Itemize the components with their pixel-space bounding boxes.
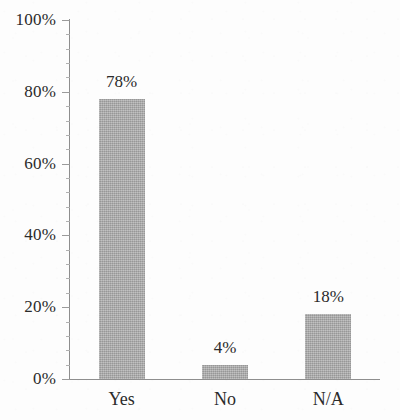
bar-value-label: 78% [82,73,162,90]
y-axis-tick-label: 100% [0,11,56,28]
y-axis-tick-label: 40% [0,226,56,243]
y-axis-major-tick [62,307,70,308]
x-axis-category-label: No [175,389,275,409]
y-axis-major-tick [62,235,70,236]
x-axis-line [69,379,380,380]
bar [99,99,145,379]
y-axis-tick-group [58,0,70,420]
y-axis-major-tick [62,92,70,93]
plot-area: 78%4%18% [70,20,380,379]
bar-chart: 0%20%40%60%80%100% 78%4%18% YesNoN/A [0,0,400,420]
bar-value-label: 18% [288,288,368,305]
y-axis-tick-label: 80% [0,83,56,100]
x-axis-category-label: N/A [278,389,378,409]
y-axis-tick-label: 60% [0,155,56,172]
y-axis-major-tick [62,20,70,21]
bar-value-label: 4% [185,339,265,356]
bar [305,314,351,379]
y-axis-tick-label: 20% [0,298,56,315]
y-axis-major-tick [62,379,70,380]
x-axis-category-label: Yes [72,389,172,409]
y-axis-tick-label: 0% [0,370,56,387]
bar [202,365,248,379]
y-axis-major-tick [62,164,70,165]
